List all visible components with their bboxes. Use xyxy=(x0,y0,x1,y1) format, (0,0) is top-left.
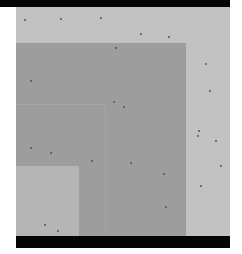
bottom-black-bar xyxy=(16,236,230,248)
light-inner-layer xyxy=(16,166,79,236)
speck xyxy=(220,165,222,167)
speck xyxy=(30,147,32,149)
speck xyxy=(197,135,199,137)
speck xyxy=(113,101,115,103)
speck xyxy=(123,106,125,108)
speck xyxy=(130,162,132,164)
speck xyxy=(215,140,217,142)
speck xyxy=(50,152,52,154)
top-black-bar xyxy=(0,0,230,7)
speck xyxy=(44,224,46,226)
speck xyxy=(24,19,26,21)
speck xyxy=(91,160,93,162)
speck xyxy=(209,90,211,92)
inner-layer-edge-vertical xyxy=(105,104,106,236)
speck xyxy=(168,36,170,38)
speck xyxy=(200,185,202,187)
inner-layer-edge-horizontal xyxy=(16,104,106,105)
speck xyxy=(115,47,117,49)
speck xyxy=(57,230,59,232)
speck xyxy=(198,130,200,132)
speck xyxy=(165,206,167,208)
speck xyxy=(205,63,207,65)
speck xyxy=(60,18,62,20)
speck xyxy=(100,17,102,19)
speck xyxy=(140,33,142,35)
speck xyxy=(30,80,32,82)
speck xyxy=(163,173,165,175)
